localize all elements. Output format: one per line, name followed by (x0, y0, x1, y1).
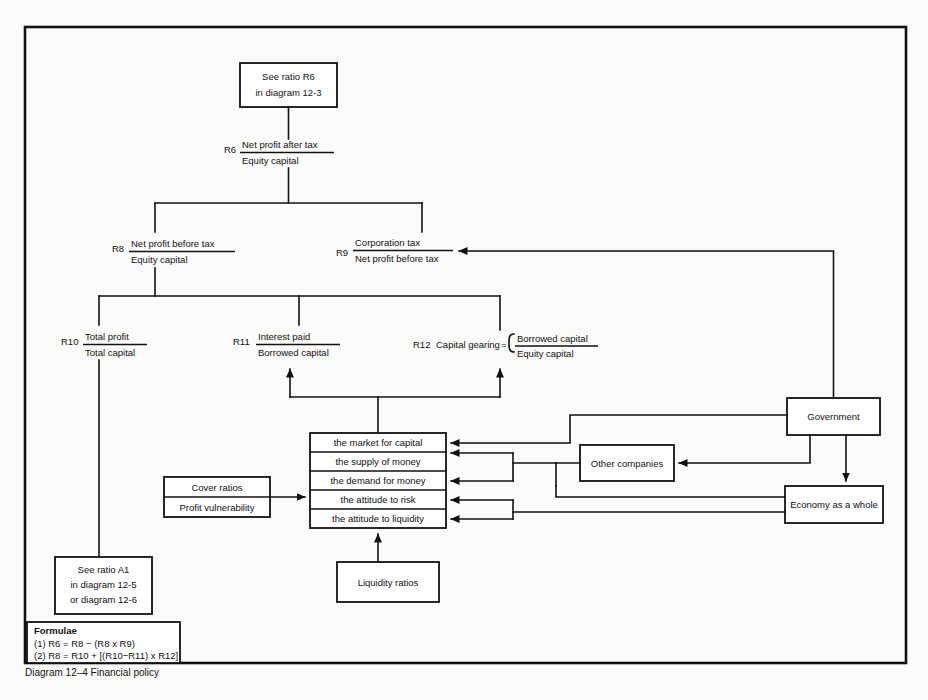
ratio-r9-denominator: Net profit before tax (355, 253, 439, 264)
cover-ratios-row-cover-ratios: Cover ratios (191, 482, 242, 493)
ratio-r12-numerator: Borrowed capital (517, 333, 588, 344)
ratio-r11-denominator: Borrowed capital (258, 347, 329, 358)
formulae-line-2: (2) R8 = R10 + [(R10−R11) x R12] (34, 650, 178, 661)
diagram-page: See ratio R6 in diagram 12-3 R6 Net prof… (0, 0, 928, 700)
ratio-r12-brace (509, 334, 514, 352)
edge-other-companies-bottom-loop (556, 486, 785, 497)
ratio-r11-label: R11 (233, 336, 250, 347)
ratio-r6-denominator: Equity capital (242, 155, 299, 166)
ratio-r12-name: Capital gearing (436, 339, 500, 350)
factor-row-demand-for-money: the demand for money (330, 475, 425, 486)
ratio-r10-label: R10 (61, 336, 78, 347)
ratio-r8-denominator: Equity capital (131, 254, 188, 265)
ratio-r8-numerator: Net profit before tax (131, 238, 215, 249)
see-ratio-r6-box (240, 63, 337, 107)
other-companies-label: Other companies (591, 458, 664, 469)
see-ratio-a1-line1: See ratio A1 (78, 564, 130, 575)
see-ratio-r6-line2: in diagram 12-3 (255, 87, 321, 98)
formulae-line-1: (1) R6 = R8 − (R8 x R9) (34, 638, 135, 649)
ratio-r6-numerator: Net profit after tax (242, 139, 318, 150)
government-label: Government (807, 411, 860, 422)
ratio-r8-label: R8 (112, 243, 124, 254)
economy-label: Economy as a whole (790, 499, 878, 510)
see-ratio-r6-line1: See ratio R6 (262, 71, 315, 82)
factor-row-supply-of-money: the supply of money (335, 456, 420, 467)
ratio-r10-numerator: Total profit (85, 331, 129, 342)
liquidity-ratios-label: Liquidity ratios (358, 577, 419, 588)
ratio-r10-denominator: Total capital (85, 347, 135, 358)
factor-row-attitude-to-liquidity: the attitude to liquidity (332, 513, 424, 524)
edge-government-to-r9 (459, 251, 834, 398)
factor-row-attitude-to-risk: the attitude to risk (341, 494, 416, 505)
formulae-heading: Formulae (34, 625, 77, 636)
ratio-r11-numerator: Interest paid (258, 331, 310, 342)
ratio-r12-label: R12 (413, 339, 430, 350)
ratio-r9-label: R9 (336, 247, 348, 258)
financial-policy-diagram: See ratio R6 in diagram 12-3 R6 Net prof… (0, 0, 928, 700)
edge-government-to-other-companies (679, 435, 810, 463)
see-ratio-a1-line2: in diagram 12-5 (70, 579, 136, 590)
ratio-r12-equals: = (501, 339, 507, 350)
edge-government-to-market-for-capital (451, 415, 787, 443)
factor-row-market-for-capital: the market for capital (334, 437, 423, 448)
ratio-r9-numerator: Corporation tax (355, 237, 420, 248)
see-ratio-a1-line3: or diagram 12-6 (70, 594, 137, 605)
diagram-caption: Diagram 12–4 Financial policy (25, 667, 159, 678)
ratio-r6-label: R6 (224, 144, 236, 155)
cover-ratios-row-profit-vulnerability: Profit vulnerability (180, 502, 255, 513)
ratio-r12-denominator: Equity capital (517, 348, 574, 359)
